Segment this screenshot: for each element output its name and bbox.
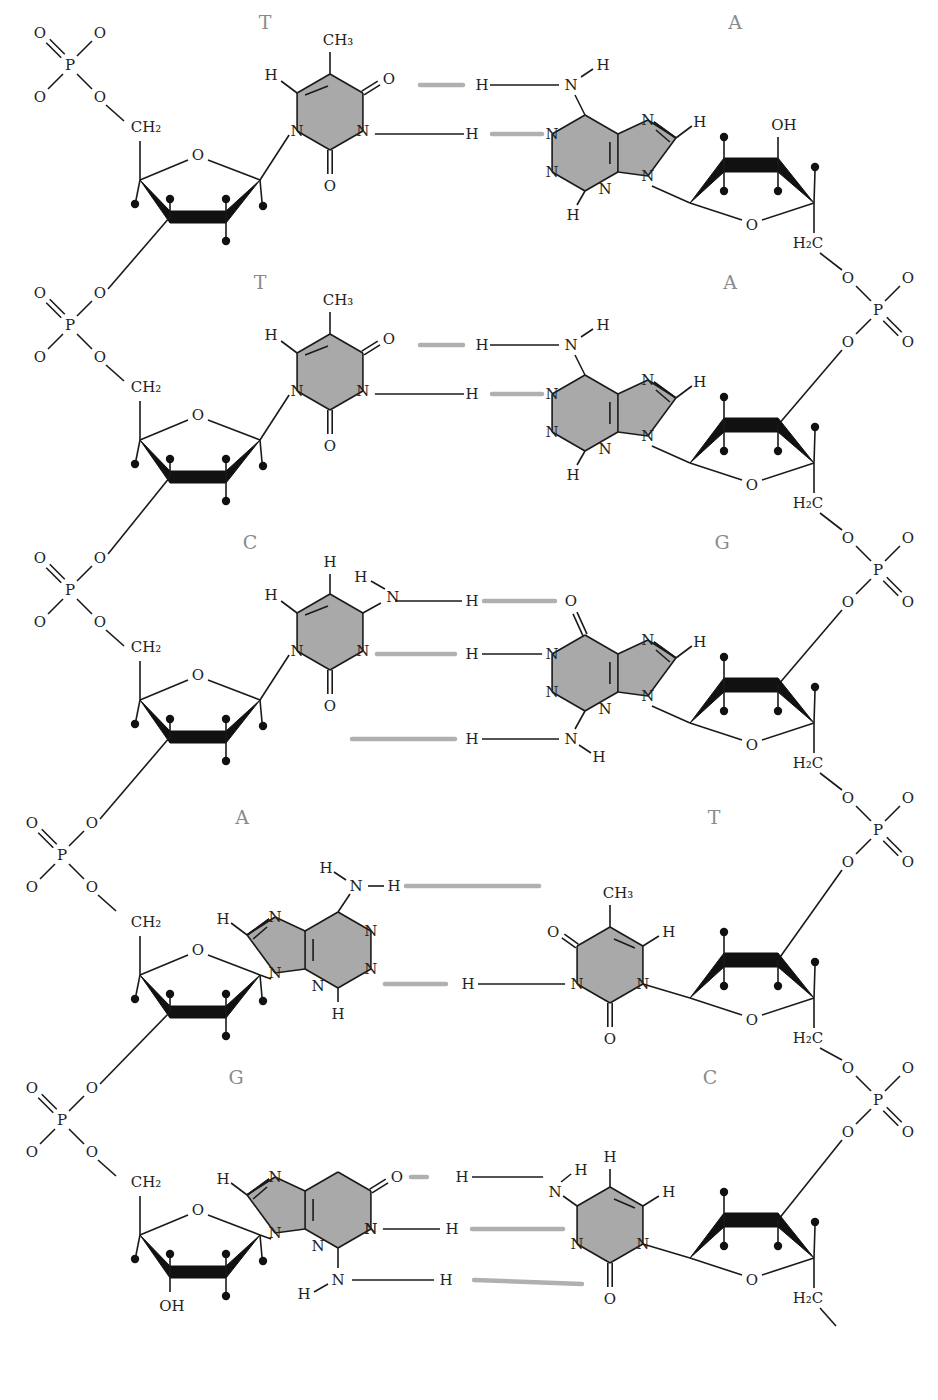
atom-label: H	[693, 113, 706, 131]
hydrogen-dot	[774, 982, 782, 990]
atom-label: H₂C	[793, 754, 824, 772]
hydrogen-dot	[222, 757, 230, 765]
atom-label: H	[475, 336, 488, 354]
atom-label: N	[269, 1168, 282, 1186]
atom-label: N	[641, 111, 654, 129]
atom-label: O	[842, 1123, 854, 1141]
hydrogen-dot	[222, 1292, 230, 1300]
hydrogen-dot	[774, 1242, 782, 1250]
atom-label: N	[546, 163, 559, 181]
base-letter-left: G	[228, 1066, 243, 1088]
hydrogen-dot	[811, 958, 819, 966]
phosphate-group: POOOO	[842, 529, 914, 611]
base-pair-row-3: CGPOOOOOCH₂OH₂CPOOOONNHHNHONNHNNONNHHHH	[34, 531, 914, 960]
atom-label: O	[842, 529, 854, 547]
hydrogen-dot	[720, 653, 728, 661]
atom-label: H	[596, 56, 609, 74]
sugar-left: OCH₂	[131, 118, 267, 245]
base-adenine: NNHNN	[546, 371, 707, 458]
atom-label: O	[86, 814, 98, 832]
hydrogen-dot	[222, 195, 230, 203]
sugar-right: OH₂C	[690, 928, 823, 1047]
hydrogen-dot	[720, 1188, 728, 1196]
atom-label: H	[603, 1148, 616, 1166]
atom-label: H	[297, 1285, 310, 1303]
atom-label: H	[465, 125, 478, 143]
atom-label: P	[65, 581, 75, 599]
atom-label: O	[842, 269, 854, 287]
atom-label: P	[873, 821, 883, 839]
phosphate-group: POOOO	[34, 549, 106, 631]
atom-label: N	[641, 631, 654, 649]
atom-label: H	[693, 373, 706, 391]
atom-label: N	[269, 908, 282, 926]
base-letter-right: G	[714, 531, 729, 553]
atom-label: H	[475, 76, 488, 94]
atom-label: O	[94, 348, 106, 366]
atom-label: N	[349, 877, 362, 895]
atom-label: N	[291, 382, 304, 400]
atom-label: O	[324, 177, 336, 195]
atom-label: O	[902, 789, 914, 807]
atom-label: H	[461, 975, 474, 993]
atom-label: H	[662, 1183, 675, 1201]
hydrogen-dot	[222, 497, 230, 505]
base-letter-left: A	[234, 806, 249, 828]
atom-label: H₂C	[793, 1029, 824, 1047]
atom-label: N	[356, 122, 369, 140]
hydrogen-dot	[259, 462, 267, 470]
atom-label: O	[86, 1143, 98, 1161]
base-letter-left: T	[259, 11, 272, 33]
atom-label: P	[57, 846, 67, 864]
atom-label: H	[465, 385, 478, 403]
atom-label: H	[265, 586, 278, 604]
atom-label: O	[565, 592, 577, 610]
hydrogen-dot	[774, 447, 782, 455]
atom-label: N	[356, 642, 369, 660]
atom-label: H	[387, 877, 400, 895]
phosphate-group: POOOO	[34, 284, 106, 366]
atom-label: H	[354, 568, 367, 586]
hydrogen-dot	[774, 187, 782, 195]
hydrogen-dot	[774, 707, 782, 715]
phosphate-group: POOOO	[34, 24, 106, 106]
base-letter-left: C	[243, 531, 258, 553]
atom-label: O	[94, 613, 106, 631]
hydrogen-dot	[222, 455, 230, 463]
atom-label: N	[571, 975, 584, 993]
atom-label: P	[873, 561, 883, 579]
atom-label: O	[902, 1059, 914, 1077]
atom-label: O	[383, 330, 395, 348]
atom-label: H₂C	[793, 494, 824, 512]
atom-label: P	[873, 301, 883, 319]
atom-label: N	[546, 385, 559, 403]
sugar-right: OH₂C	[690, 1188, 823, 1307]
atom-label: O	[902, 269, 914, 287]
atom-label: O	[604, 1030, 616, 1048]
atom-label: CH₃	[323, 31, 354, 49]
phosphate-group: POOOO	[842, 269, 914, 351]
base-pair-row-2: TAPOOOOOCH₂OH₂CPOOOONNCH₃HOONNHNNNHNHHH	[34, 271, 914, 685]
hydrogen-dot	[166, 195, 174, 203]
atom-label: O	[842, 853, 854, 871]
atom-label: CH₂	[131, 638, 162, 656]
phosphate-group: POOOO	[26, 1079, 98, 1161]
hydrogen-dot	[720, 1242, 728, 1250]
phosphate-group: POOOO	[842, 1059, 914, 1141]
atom-label: H	[662, 923, 675, 941]
atom-label: H₂C	[793, 234, 824, 252]
base-thymine: NNHOCH₃O	[547, 884, 690, 1048]
atom-label: H	[265, 326, 278, 344]
atom-label: O	[902, 333, 914, 351]
hydrogen-dot	[720, 393, 728, 401]
sugar-left: OCH₂	[131, 913, 267, 1040]
atom-label: O	[94, 549, 106, 567]
atom-label: O	[746, 476, 758, 494]
hydrogen-dot	[222, 715, 230, 723]
base-letter-right: A	[727, 11, 742, 33]
hydrogen-dot	[259, 722, 267, 730]
atom-label: O	[746, 736, 758, 754]
atom-label: O	[391, 1168, 403, 1186]
hydrogen-dot	[131, 460, 139, 468]
atom-label: O	[842, 593, 854, 611]
